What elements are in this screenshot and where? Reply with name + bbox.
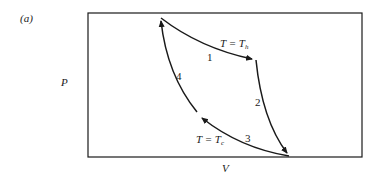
segment-3-label: 3 — [245, 133, 251, 144]
segment-4-label: 4 — [176, 71, 182, 82]
segment-1-label: 1 — [207, 52, 213, 63]
plot-frame — [88, 13, 362, 157]
y-axis-label: P — [61, 77, 68, 88]
isotherm-hot-text: T = T — [220, 37, 245, 49]
segment-2-curve — [256, 60, 287, 153]
isotherm-hot-subscript: h — [245, 43, 249, 51]
segment-2-label: 2 — [255, 97, 261, 108]
x-axis-label: V — [222, 163, 229, 174]
isotherm-cold-label: T = Tc — [196, 134, 224, 147]
isotherm-hot-label: T = Th — [220, 38, 248, 51]
pv-diagram — [0, 0, 379, 179]
isotherm-cold-subscript: c — [221, 139, 224, 147]
segment-4-curve — [161, 21, 197, 112]
isotherm-cold-text: T = T — [196, 133, 221, 145]
